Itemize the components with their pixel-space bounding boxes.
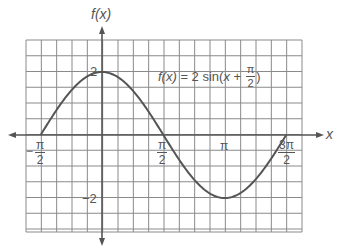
frac-num: 3π [278,139,295,152]
formula-fraction: π 2 [246,64,256,89]
y-tick-label-2: 2 [90,65,97,78]
x-tick-label-half-pi: π 2 [157,139,167,166]
function-formula: f(x) = 2 sin( x + π 2 ) [158,64,261,89]
y-tick-label-neg2: −2 [82,192,97,205]
frac-den: 2 [37,153,44,166]
x-tick-label-neg-half-pi: π 2 [35,139,45,166]
chart-canvas [0,0,337,249]
frac-num: π [35,139,45,152]
frac-den: 2 [283,153,290,166]
x-axis-left-arrow-icon [8,132,16,138]
x-tick-label-pi: π [220,140,228,152]
formula-eq: = 2 sin( [177,69,224,84]
formula-plus: + [230,69,245,84]
formula-close: ) [256,69,260,84]
frac-den: 2 [159,153,166,166]
x-tick-label-three-half-pi: 3π 2 [278,139,295,166]
x-axis-right-arrow-icon [316,132,324,138]
frac-den: 2 [247,77,253,89]
frac-num: π [246,64,256,76]
y-axis-up-arrow-icon [99,26,105,34]
y-axis-down-arrow-icon [99,238,105,246]
y-axis-label: f(x) [91,7,111,21]
x-axis-label: x [326,127,333,141]
frac-num: π [157,139,167,152]
formula-lhs: f(x) [158,69,177,84]
x-tick-neg-sign: − [26,145,33,157]
